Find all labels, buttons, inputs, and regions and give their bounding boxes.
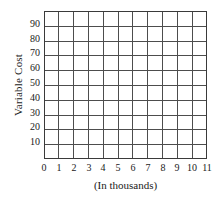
- grid-lines: [44, 11, 207, 159]
- x-axis-title: (In thousands): [44, 179, 207, 192]
- y-tick-label: 90: [20, 19, 40, 29]
- variable-cost-chart: Variable Cost 90 80 70 60 50 40 30 20 10: [0, 0, 218, 197]
- plot-area: [44, 11, 207, 159]
- y-tick-label: 10: [20, 137, 40, 147]
- y-tick-label: 20: [20, 122, 40, 132]
- y-tick-label: 50: [20, 78, 40, 88]
- y-tick-label: 30: [20, 108, 40, 118]
- y-tick-label: 40: [20, 93, 40, 103]
- x-axis-tick-labels: 0 1 2 3 4 5 6 7 8 9 10 11: [0, 162, 218, 174]
- x-tick-label: 11: [195, 162, 218, 174]
- y-tick-label: 70: [20, 48, 40, 58]
- y-tick-label: 60: [20, 63, 40, 73]
- y-tick-label: 80: [20, 34, 40, 44]
